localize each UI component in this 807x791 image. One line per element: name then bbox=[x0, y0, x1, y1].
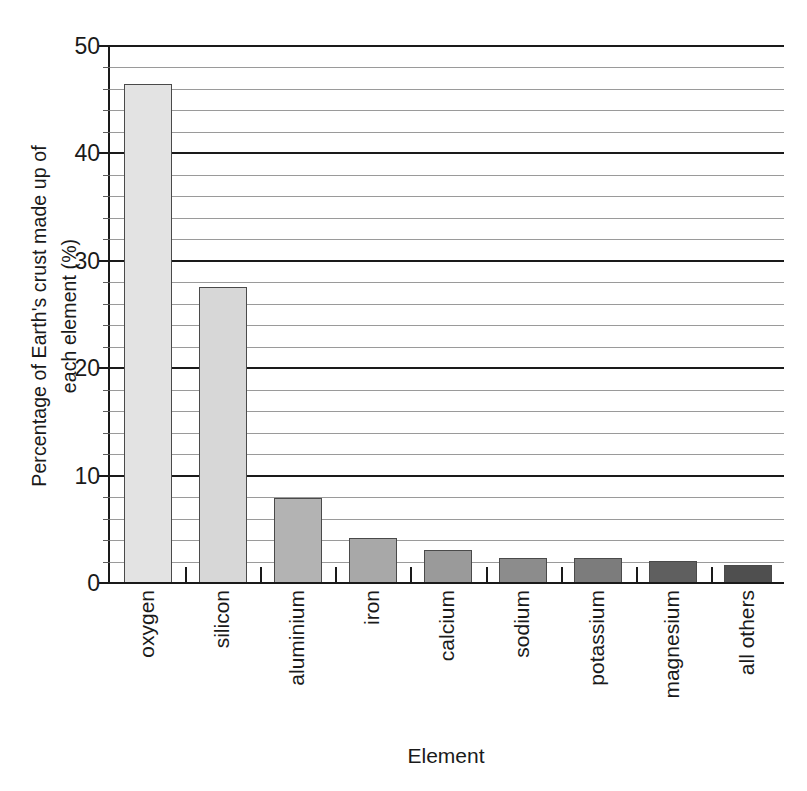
y-tick-minor bbox=[103, 110, 110, 111]
bar-iron bbox=[349, 538, 397, 584]
y-tick-label: 10 bbox=[56, 465, 100, 488]
x-category-label: potassium bbox=[586, 590, 607, 686]
y-tick-minor bbox=[103, 433, 110, 434]
y-tick-minor bbox=[103, 347, 110, 348]
y-tick-minor bbox=[103, 390, 110, 391]
y-tick-minor bbox=[103, 196, 110, 197]
y-tick-minor bbox=[103, 411, 110, 412]
x-axis-category-labels: oxygensiliconaluminiumironcalciumsodiump… bbox=[108, 590, 784, 735]
x-category-aluminium: aluminium bbox=[258, 590, 333, 735]
x-category-all-others: all others bbox=[709, 590, 784, 735]
y-axis-tick-labels: 01020304050 bbox=[52, 0, 100, 791]
y-tick-minor bbox=[103, 519, 110, 520]
x-category-sodium: sodium bbox=[484, 590, 559, 735]
y-tick-minor bbox=[103, 540, 110, 541]
y-tick-minor bbox=[103, 239, 110, 240]
x-category-label: silicon bbox=[210, 590, 231, 648]
y-tick-major bbox=[99, 475, 110, 477]
x-category-label: oxygen bbox=[135, 590, 156, 658]
bar-calcium bbox=[424, 550, 472, 584]
y-tick-minor bbox=[103, 89, 110, 90]
y-tick-minor bbox=[103, 282, 110, 283]
x-category-label: iron bbox=[360, 590, 381, 625]
x-category-label: calcium bbox=[435, 590, 456, 661]
y-axis-title-line-1: Percentage of Earth's crust made up of bbox=[24, 47, 54, 584]
y-tick-major bbox=[99, 260, 110, 262]
bar-magnesium bbox=[649, 561, 697, 584]
y-tick-minor bbox=[103, 304, 110, 305]
x-category-potassium: potassium bbox=[559, 590, 634, 735]
x-category-label: sodium bbox=[511, 590, 532, 658]
x-category-label: aluminium bbox=[285, 590, 306, 686]
y-tick-minor bbox=[103, 132, 110, 133]
x-axis-line bbox=[110, 582, 784, 584]
x-category-label: all others bbox=[736, 590, 757, 675]
x-category-label: magnesium bbox=[661, 590, 682, 699]
y-tick-label: 20 bbox=[56, 357, 100, 380]
bar-oxygen bbox=[124, 84, 172, 584]
x-category-magnesium: magnesium bbox=[634, 590, 709, 735]
y-tick-label: 50 bbox=[56, 35, 100, 58]
y-tick-label: 40 bbox=[56, 142, 100, 165]
y-tick-major bbox=[99, 582, 110, 584]
x-category-silicon: silicon bbox=[183, 590, 258, 735]
x-category-iron: iron bbox=[333, 590, 408, 735]
y-tick-label: 0 bbox=[56, 572, 100, 595]
y-tick-minor bbox=[103, 454, 110, 455]
bar-sodium bbox=[499, 558, 547, 584]
x-category-calcium: calcium bbox=[408, 590, 483, 735]
y-tick-minor bbox=[103, 562, 110, 563]
y-tick-minor bbox=[103, 325, 110, 326]
y-tick-label: 30 bbox=[56, 250, 100, 273]
x-category-oxygen: oxygen bbox=[108, 590, 183, 735]
bar-potassium bbox=[574, 558, 622, 584]
y-tick-major bbox=[99, 367, 110, 369]
y-tick-major bbox=[99, 45, 110, 47]
bar-series bbox=[110, 47, 784, 584]
y-tick-minor bbox=[103, 218, 110, 219]
y-tick-major bbox=[99, 152, 110, 154]
chart-figure: Percentage of Earth's crust made up of e… bbox=[0, 0, 807, 791]
y-tick-minor bbox=[103, 175, 110, 176]
x-axis-title: Element bbox=[108, 744, 784, 768]
plot-area bbox=[108, 47, 784, 584]
y-tick-minor bbox=[103, 67, 110, 68]
bar-silicon bbox=[199, 287, 247, 584]
bar-aluminium bbox=[274, 498, 322, 584]
y-tick-minor bbox=[103, 497, 110, 498]
